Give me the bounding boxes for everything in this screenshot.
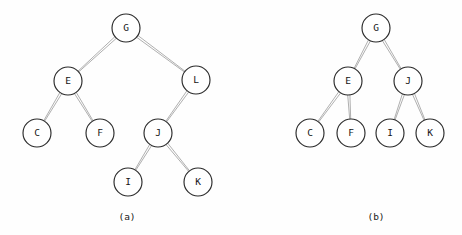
tree-node-a-E[interactable]: E xyxy=(54,67,82,95)
tree-edge-b-G-E xyxy=(354,39,371,69)
tree-edge-b-J-K xyxy=(412,93,425,121)
tree-figure-canvas: GELCFJIKGEJCFIK (a)(b) xyxy=(0,0,462,235)
figure-caption-a: (a) xyxy=(118,211,135,222)
tree-node-label-b-J: J xyxy=(405,75,411,86)
nodes-layer: GELCFJIKGEJCFIK xyxy=(23,14,444,196)
tree-node-label-b-G: G xyxy=(373,22,379,33)
tree-node-b-E[interactable]: E xyxy=(334,67,362,95)
tree-node-a-F[interactable]: F xyxy=(86,119,114,147)
figure-root: GELCFJIKGEJCFIK (a)(b) xyxy=(0,0,462,235)
tree-edge-a-E-C xyxy=(43,92,62,122)
tree-edge-a-E-F xyxy=(74,92,93,122)
tree-node-label-b-E: E xyxy=(345,75,351,86)
tree-edge-b-J-I xyxy=(394,93,405,120)
tree-edge-b-E-C xyxy=(318,91,341,122)
tree-node-b-F[interactable]: F xyxy=(337,119,365,147)
tree-edge-a-G-E xyxy=(78,36,117,72)
tree-node-label-a-K: K xyxy=(195,176,201,187)
tree-node-b-J[interactable]: J xyxy=(394,67,422,95)
tree-node-label-a-F: F xyxy=(97,127,103,138)
tree-node-a-I[interactable]: I xyxy=(114,168,142,196)
edges-layer xyxy=(43,35,425,172)
tree-node-a-C[interactable]: C xyxy=(23,119,51,147)
tree-node-label-b-K: K xyxy=(427,127,433,138)
tree-node-b-I[interactable]: I xyxy=(376,119,404,147)
tree-edge-b-E-F xyxy=(348,94,351,119)
figure-caption-b: (b) xyxy=(367,211,384,222)
tree-edge-a-L-J xyxy=(165,90,189,122)
captions-layer: (a)(b) xyxy=(118,211,384,222)
tree-node-label-b-C: C xyxy=(307,127,313,138)
tree-edge-b-G-J xyxy=(382,39,401,70)
tree-edge-a-G-L xyxy=(136,35,185,72)
tree-node-label-a-G: G xyxy=(123,22,129,33)
tree-node-label-a-E: E xyxy=(65,75,71,86)
tree-node-label-a-C: C xyxy=(34,127,40,138)
tree-node-label-b-I: I xyxy=(387,127,393,138)
tree-node-label-a-I: I xyxy=(125,176,131,187)
tree-node-b-K[interactable]: K xyxy=(416,119,444,147)
tree-node-label-a-J: J xyxy=(155,127,161,138)
tree-node-label-b-F: F xyxy=(348,127,354,138)
tree-node-label-a-L: L xyxy=(193,74,199,85)
tree-node-a-G[interactable]: G xyxy=(112,14,140,42)
tree-node-b-G[interactable]: G xyxy=(362,14,390,42)
tree-node-a-J[interactable]: J xyxy=(144,119,172,147)
tree-node-b-C[interactable]: C xyxy=(296,119,324,147)
tree-edge-a-J-I xyxy=(135,144,152,171)
tree-node-a-L[interactable]: L xyxy=(182,66,210,94)
tree-node-a-K[interactable]: K xyxy=(184,168,212,196)
tree-edge-a-J-K xyxy=(166,143,190,172)
